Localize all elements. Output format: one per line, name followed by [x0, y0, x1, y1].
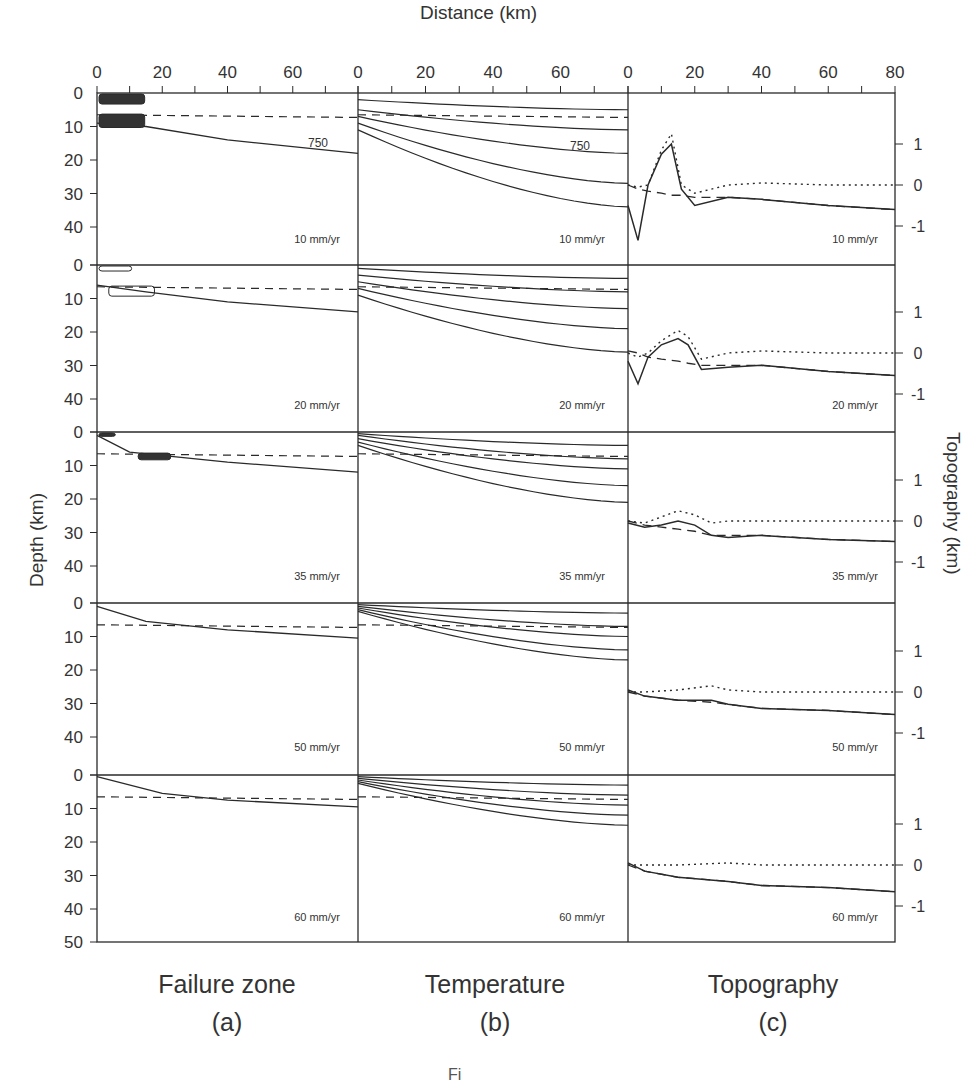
rate-label: 35 mm/yr	[294, 570, 340, 582]
isotherm-line	[358, 439, 628, 469]
x-tick-label: 0	[623, 63, 632, 82]
depth-tick-label: 10	[64, 800, 83, 819]
topography-dotted-line	[628, 511, 895, 523]
topo-tick-label: -1	[911, 898, 925, 915]
topography-dashed-line	[628, 865, 895, 892]
x-tick-label: 20	[685, 63, 704, 82]
depth-tick-label: 10	[64, 457, 83, 476]
rate-label: 20 mm/yr	[559, 399, 605, 411]
depth-tick-label: 10	[64, 290, 83, 309]
topography-solid-line	[628, 144, 895, 240]
moho-dashed-line	[358, 454, 628, 457]
topo-tick-label: 1	[914, 643, 923, 660]
topo-tick-label: 0	[914, 177, 923, 194]
column-title-topography: Topography	[638, 970, 908, 999]
column-letter-a: (a)	[92, 1008, 362, 1037]
topo-tick-label: 0	[914, 345, 923, 362]
topo-tick-label: 0	[914, 857, 923, 874]
rate-label: 60 mm/yr	[294, 911, 340, 923]
depth-tick-label: 30	[64, 185, 83, 204]
failure-zone-region	[99, 94, 145, 104]
topo-tick-label: 0	[914, 513, 923, 530]
topography-solid-line	[628, 863, 895, 892]
depth-tick-label: 0	[74, 766, 83, 785]
topo-tick-label: -1	[911, 218, 925, 235]
depth-tick-label: 40	[64, 218, 83, 237]
topo-tick-label: 0	[914, 684, 923, 701]
depth-tick-label: 40	[64, 900, 83, 919]
isotherm-label: 750	[570, 139, 590, 153]
depth-tick-label: 20	[64, 323, 83, 342]
depth-tick-label: 30	[64, 524, 83, 543]
topo-tick-label: 1	[914, 816, 923, 833]
depth-tick-label: 10	[64, 628, 83, 647]
topography-dotted-line	[628, 863, 895, 865]
isotherm-line	[358, 295, 628, 352]
depth-tick-label: 30	[64, 867, 83, 886]
rate-label: 35 mm/yr	[832, 570, 878, 582]
rate-label: 20 mm/yr	[832, 399, 878, 411]
isotherm-line	[358, 445, 628, 502]
depth-tick-label: 20	[64, 490, 83, 509]
depth-tick-label: 10	[64, 118, 83, 137]
topo-tick-label: -1	[911, 725, 925, 742]
figure-caption-fragment: Fi	[448, 1066, 461, 1084]
topography-dotted-line	[628, 686, 895, 692]
x-tick-label: 20	[416, 63, 435, 82]
moho-dashed-line	[97, 287, 358, 290]
column-letter-c: (c)	[638, 1008, 908, 1037]
column-title-failure-zone: Failure zone	[92, 970, 362, 999]
topo-tick-label: -1	[911, 386, 925, 403]
isotherm-750-line	[97, 285, 358, 312]
topography-solid-line	[628, 339, 895, 384]
isotherm-line	[358, 435, 628, 458]
isotherm-line	[358, 605, 628, 613]
depth-tick-label: 30	[64, 695, 83, 714]
column-title-temperature: Temperature	[360, 970, 630, 999]
depth-tick-label: 20	[64, 151, 83, 170]
rate-label: 35 mm/yr	[559, 570, 605, 582]
topography-solid-line	[628, 521, 895, 542]
failure-zone-region	[99, 433, 115, 436]
y-axis-right-title: Topography (km)	[942, 432, 964, 575]
isotherm-line	[358, 434, 628, 446]
depth-tick-label: 20	[64, 833, 83, 852]
x-tick-label: 80	[886, 63, 905, 82]
isotherm-750-line	[97, 606, 358, 638]
rate-label: 10 mm/yr	[294, 233, 340, 245]
rate-label: 60 mm/yr	[832, 911, 878, 923]
x-tick-label: 40	[484, 63, 503, 82]
x-tick-label: 40	[752, 63, 771, 82]
topo-tick-label: 1	[914, 136, 923, 153]
y-axis-left-title: Depth (km)	[26, 493, 48, 587]
x-tick-label: 20	[153, 63, 172, 82]
moho-dashed-line	[97, 625, 358, 628]
topography-dashed-line	[628, 692, 895, 715]
topo-tick-label: -1	[911, 554, 925, 571]
x-tick-label: 0	[353, 63, 362, 82]
failure-zone-region	[138, 453, 171, 460]
x-tick-label: 60	[551, 63, 570, 82]
depth-tick-label: 40	[64, 728, 83, 747]
figure-frame	[97, 93, 895, 942]
rate-label: 20 mm/yr	[294, 399, 340, 411]
isotherm-line	[358, 442, 628, 486]
depth-tick-label: 40	[64, 390, 83, 409]
isotherm-750-line	[97, 777, 358, 807]
isotherm-label: 750	[308, 136, 328, 150]
x-tick-label: 40	[218, 63, 237, 82]
x-tick-label: 60	[819, 63, 838, 82]
isotherm-line	[358, 606, 628, 626]
isotherm-line	[358, 782, 628, 816]
moho-dashed-line	[97, 797, 358, 800]
depth-tick-label: 50	[64, 933, 83, 952]
depth-tick-label: 20	[64, 661, 83, 680]
failure-zone-region	[99, 114, 145, 127]
moho-dashed-line	[358, 115, 628, 118]
isotherm-line	[358, 777, 628, 785]
isotherm-line	[358, 123, 628, 183]
isotherm-line	[358, 268, 628, 278]
depth-tick-label: 0	[74, 423, 83, 442]
rate-label: 50 mm/yr	[559, 741, 605, 753]
